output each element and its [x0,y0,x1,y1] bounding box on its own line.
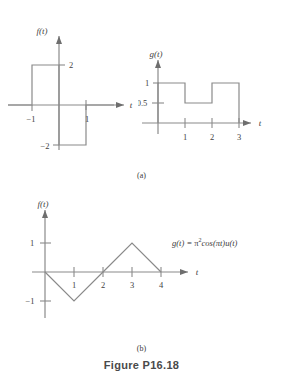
y-axis-label: g(t) [150,49,163,59]
x-tick-label-1: 1 [72,280,76,290]
x-axis-arrow-icon [243,120,251,126]
equation-rhs: cos(πt)u(t) [202,238,238,248]
x-tick-label-4: 4 [159,280,164,290]
chart-panel-a-left: f(t) t −1 1 2 −2 [2,22,142,162]
y-axis-arrow-icon [56,36,62,44]
chart-panel-a-right: g(t) t 1 2 3 1 0.5 [138,34,283,154]
waveform-g-t [158,83,239,123]
x-tick-label-1: 1 [85,114,89,124]
panel-b-label-text: (b) [137,344,146,353]
panel-b-label: (b) [0,337,283,355]
y-tick-label-05: 0.5 [138,98,147,108]
x-tick-label-2: 2 [101,280,105,290]
equation-annotation: g(t) = π2cos(πt)u(t) [172,237,237,248]
figure-caption: Figure P16.18 [0,359,283,371]
y-tick-label-2: 2 [69,60,73,70]
x-tick-label-1: 1 [183,132,187,142]
panel-a-label-text: (a) [137,171,146,180]
y-axis-label: f(t) [38,199,49,209]
y-tick-label-neg1: −1 [25,296,34,306]
figure-p16-18: f(t) t −1 1 2 −2 g(t) t 1 2 3 1 0.5 (a) [0,0,283,392]
y-axis-arrow-icon [42,210,48,218]
x-axis-label: t [259,118,262,128]
x-tick-label-3: 3 [237,132,241,142]
chart-panel-b: f(t) t 1 2 3 4 1 −1 [18,196,218,326]
x-tick-label-neg1: −1 [26,114,35,124]
y-axis-arrow-icon [155,60,161,68]
x-axis-label: t [130,100,133,110]
y-tick-label-1: 1 [145,78,149,88]
x-axis-arrow-icon [180,269,188,275]
x-axis-label: t [196,267,199,277]
figure-caption-text: Figure P16.18 [104,359,179,371]
y-tick-label-1: 1 [30,238,34,248]
y-tick-label-neg2: −2 [40,141,49,151]
x-axis-arrow-icon [116,102,124,108]
x-tick-label-2: 2 [210,132,214,142]
panel-a-label: (a) [0,164,283,182]
y-axis-label: f(t) [37,26,48,36]
x-tick-label-3: 3 [130,280,134,290]
equation-lhs: g(t) = [172,238,194,248]
